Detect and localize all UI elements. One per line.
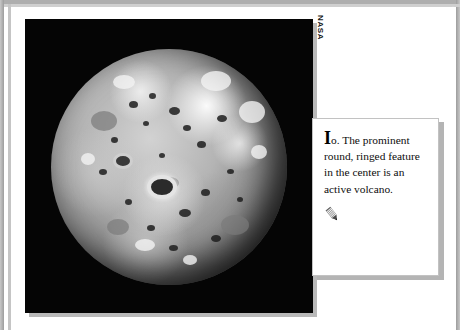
caption-box[interactable]: Io. The prominent round, ringed feature … [312,118,439,276]
active-volcano-ring-feature [147,175,177,199]
image-viewer-window: NASA Io. The prominent round, ringed fea… [0,0,460,330]
window-frame-right [456,0,460,330]
caption-drop-cap: I [324,128,331,148]
photo-container[interactable] [25,19,313,313]
io-photograph[interactable] [25,19,313,313]
caption-text: Io. The prominent round, ringed feature … [324,132,429,197]
secondary-ring-feature [113,153,133,169]
window-frame-left [0,0,4,330]
io-sphere-graphic [51,49,287,285]
annotation-pen-icon[interactable] [324,206,341,223]
page-canvas: NASA Io. The prominent round, ringed fea… [11,7,454,330]
caption-body: o. The prominent round, ringed feature i… [324,134,420,195]
nasa-credit-label: NASA [279,15,325,27]
